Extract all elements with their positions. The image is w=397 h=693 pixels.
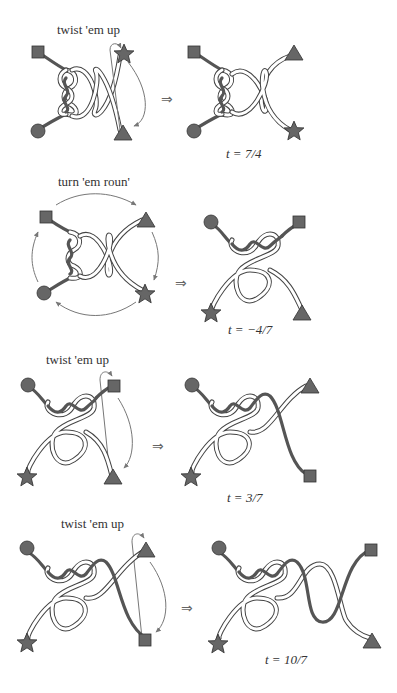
panel-1: twist 'em up ⇒: [0, 0, 397, 170]
result-value: t = 10/7: [265, 652, 307, 668]
tangle-after-diagram: [0, 340, 397, 510]
panel-3: twist 'em up ⇒ t = 3/7: [0, 340, 397, 510]
panel-4: twist 'em up ⇒ t = 10/7: [0, 510, 397, 693]
panel-2: turn 'em roun' ⇒ t = −4/7: [0, 170, 397, 340]
tangle-after-diagram: [0, 170, 397, 340]
result-value: t = −4/7: [228, 322, 272, 338]
tangle-after-diagram: [0, 0, 397, 170]
tangle-after-diagram: [0, 510, 397, 693]
result-value: t = 7/4: [226, 146, 262, 162]
result-value: t = 3/7: [227, 490, 263, 506]
